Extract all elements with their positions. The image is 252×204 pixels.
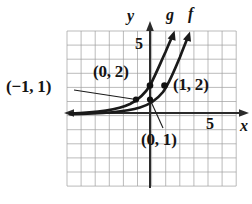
grid-lines <box>67 31 236 186</box>
x-axis-label: x <box>240 118 248 134</box>
label-point-0-2: (0, 2) <box>93 63 129 80</box>
leader-neg1-1 <box>74 90 136 100</box>
point-0-2 <box>147 82 154 89</box>
curve-g-arrow <box>168 31 176 41</box>
label-point-neg1-1: (−1, 1) <box>6 78 51 95</box>
x-axis-arrow-right <box>239 109 249 117</box>
curve-label-g: g <box>166 7 174 23</box>
y-axis-arrow-up <box>146 21 154 31</box>
y-axis-tick-label-5: 5 <box>135 36 143 52</box>
point-0-1 <box>147 96 153 102</box>
y-axis-label: y <box>127 8 134 24</box>
point-1-2 <box>161 82 168 89</box>
curve-label-f: f <box>188 6 193 22</box>
axes <box>64 21 249 188</box>
graph-figure: (−1, 1) (0, 2) (1, 2) (0, 1) 5 5 y x g f <box>0 0 252 204</box>
curve-f-arrow <box>183 32 191 42</box>
x-axis-tick-label-5: 5 <box>206 116 214 132</box>
leader-0-1 <box>151 101 164 129</box>
label-point-0-1: (0, 1) <box>141 131 177 148</box>
coordinate-plane-svg <box>0 0 252 204</box>
label-point-1-2: (1, 2) <box>173 76 209 93</box>
